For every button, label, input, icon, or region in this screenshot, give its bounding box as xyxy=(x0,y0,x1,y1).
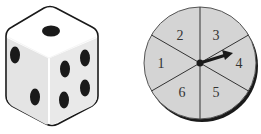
pip-right-4 xyxy=(80,80,90,97)
section-4: 4 xyxy=(236,56,243,71)
spinner: 2 3 1 4 6 5 xyxy=(144,7,258,122)
pip-right-1 xyxy=(60,61,70,78)
section-2: 2 xyxy=(177,28,184,43)
pip-top xyxy=(42,26,60,37)
pip-right-3 xyxy=(59,92,69,109)
section-1: 1 xyxy=(158,56,165,71)
pip-right-2 xyxy=(80,50,90,67)
pip-left-2 xyxy=(30,89,40,106)
illustration: 2 3 1 4 6 5 xyxy=(0,0,261,134)
pip-left-1 xyxy=(10,47,20,64)
section-5: 5 xyxy=(213,85,220,100)
section-6: 6 xyxy=(179,85,186,100)
section-3: 3 xyxy=(213,28,220,43)
die xyxy=(6,7,98,126)
